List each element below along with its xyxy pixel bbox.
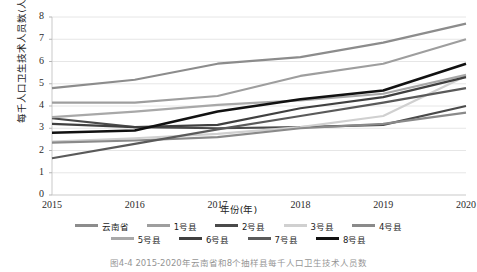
series-line-云南省 <box>52 24 466 89</box>
legend-label: 2号县 <box>242 220 265 232</box>
y-tick-label: 4 <box>26 99 44 110</box>
legend-item-4号县[interactable]: 4号县 <box>352 220 402 232</box>
chart-legend: 云南省1号县2号县3号县4号县5号县6号县7号县8号县 <box>0 219 477 245</box>
legend-swatch-icon <box>179 237 202 240</box>
legend-swatch-icon <box>75 224 98 227</box>
legend-swatch-icon <box>352 224 375 227</box>
figure-container: 每千人口卫生技术人员数(人) 876543210 201520162017201… <box>0 0 477 272</box>
legend-item-3号县[interactable]: 3号县 <box>284 220 334 232</box>
legend-label: 6号县 <box>206 233 229 245</box>
legend-swatch-icon <box>316 237 339 241</box>
legend-label: 3号县 <box>311 220 334 232</box>
legend-swatch-icon <box>111 237 134 240</box>
legend-swatch-icon <box>284 224 307 227</box>
legend-item-2号县[interactable]: 2号县 <box>215 220 265 232</box>
y-tick-label: 5 <box>26 77 44 88</box>
legend-item-7号县[interactable]: 7号县 <box>248 233 298 245</box>
line-plot <box>0 0 477 215</box>
legend-row: 云南省1号县2号县3号县4号县 <box>0 219 477 232</box>
y-tick-label: 3 <box>26 121 44 132</box>
legend-item-5号县[interactable]: 5号县 <box>111 233 161 245</box>
y-tick-label: 6 <box>26 55 44 66</box>
legend-label: 云南省 <box>102 220 129 232</box>
figure-caption: 图4-4 2015-2020年云南省和8个抽样县每千人口卫生技术人员数 <box>0 256 477 268</box>
legend-label: 7号县 <box>275 233 298 245</box>
y-tick-label: 0 <box>26 188 44 199</box>
legend-item-1号县[interactable]: 1号县 <box>147 220 197 232</box>
legend-label: 8号县 <box>343 233 366 245</box>
legend-item-云南省[interactable]: 云南省 <box>75 220 129 232</box>
legend-label: 1号县 <box>174 220 197 232</box>
series-line-7号县 <box>52 88 466 158</box>
legend-label: 4号县 <box>379 220 402 232</box>
legend-label: 5号县 <box>138 233 161 245</box>
y-tick-label: 7 <box>26 32 44 43</box>
y-tick-label: 8 <box>26 10 44 21</box>
chart-area: 每千人口卫生技术人员数(人) 876543210 201520162017201… <box>0 0 477 215</box>
legend-swatch-icon <box>147 224 170 227</box>
y-tick-label: 2 <box>26 144 44 155</box>
legend-row: 5号县6号县7号县8号县 <box>0 232 477 245</box>
y-tick-label: 1 <box>26 166 44 177</box>
legend-item-8号县[interactable]: 8号县 <box>316 233 366 245</box>
legend-swatch-icon <box>215 224 238 227</box>
legend-item-6号县[interactable]: 6号县 <box>179 233 229 245</box>
legend-swatch-icon <box>248 237 271 240</box>
x-axis-title: 年份(年) <box>0 202 477 216</box>
